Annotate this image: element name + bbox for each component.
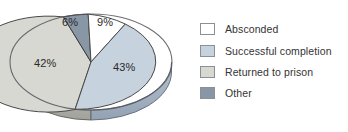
chart-legend: Absconded Successful completion Returned… bbox=[200, 16, 348, 120]
legend-item-other[interactable]: Other bbox=[200, 85, 252, 100]
legend-label-absconded: Absconded bbox=[225, 23, 278, 35]
pie-chart-figure: 9% 43% 42% 6% Absconded Successful compl… bbox=[0, 0, 348, 132]
pie-chart-plot-area: 9% 43% 42% 6% bbox=[0, 0, 186, 132]
pie-chart-svg bbox=[0, 0, 186, 132]
legend-label-successful-completion: Successful completion bbox=[225, 45, 332, 57]
legend-swatch-other bbox=[200, 87, 215, 99]
legend-label-returned-to-prison: Returned to prison bbox=[225, 66, 313, 78]
legend-item-absconded[interactable]: Absconded bbox=[200, 21, 278, 36]
legend-swatch-successful-completion bbox=[200, 45, 215, 57]
legend-label-other: Other bbox=[225, 87, 252, 99]
legend-item-successful-completion[interactable]: Successful completion bbox=[200, 43, 332, 58]
legend-item-returned-to-prison[interactable]: Returned to prison bbox=[200, 64, 313, 79]
legend-swatch-absconded bbox=[200, 23, 215, 35]
legend-swatch-returned-to-prison bbox=[200, 66, 215, 78]
